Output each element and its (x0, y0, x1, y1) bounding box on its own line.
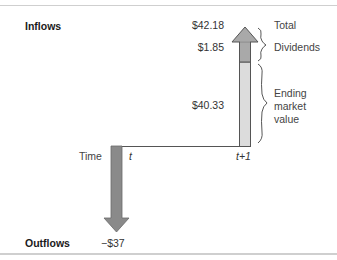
dividends-segment (240, 42, 251, 62)
inflows-label: Inflows (25, 20, 61, 32)
outflow-value: −$37 (101, 237, 125, 249)
time-t-label: t (129, 150, 132, 162)
total-annotation: Total (274, 19, 296, 31)
dividends-value: $1.85 (180, 41, 224, 53)
down-arrow-outflow-icon (104, 146, 129, 232)
market-value-segment (240, 62, 251, 147)
up-arrow-head-icon (232, 27, 258, 42)
total-value: $42.18 (180, 19, 224, 31)
ending-annotation-line2: market (274, 100, 306, 112)
ending-market-value: $40.33 (180, 99, 224, 111)
cash-flow-diagram (0, 0, 337, 260)
dividends-annotation: Dividends (274, 41, 320, 53)
market-value-brace-icon (258, 64, 267, 143)
outflows-label: Outflows (25, 237, 70, 249)
dividends-brace-icon (258, 28, 266, 61)
time-label: Time (79, 150, 102, 162)
ending-annotation-line1: Ending (274, 87, 307, 99)
ending-annotation-line3: value (274, 113, 299, 125)
time-t-plus-1-label: t+1 (236, 150, 251, 162)
